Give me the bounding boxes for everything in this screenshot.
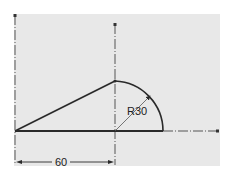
radius-label: R30 xyxy=(127,105,147,117)
dimension-label-60: 60 xyxy=(55,156,67,168)
sloped-edge xyxy=(15,81,115,131)
technical-drawing: R30 60 xyxy=(0,0,233,179)
